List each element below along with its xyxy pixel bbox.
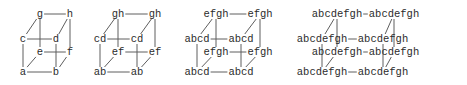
cube-edge bbox=[104, 19, 115, 34]
cube-edge bbox=[60, 57, 67, 67]
cube-edge bbox=[141, 19, 152, 34]
cube-edge bbox=[202, 57, 212, 67]
cube-edge bbox=[326, 57, 334, 67]
cube-edge bbox=[142, 57, 151, 67]
cube-edge bbox=[26, 19, 36, 34]
cube-edge bbox=[246, 57, 256, 67]
cube-edge bbox=[59, 19, 67, 34]
cube-edge bbox=[105, 57, 114, 67]
cube-edge bbox=[201, 19, 212, 34]
cube-edge bbox=[245, 19, 256, 34]
cube-edge bbox=[325, 19, 334, 34]
cube-edges bbox=[0, 0, 467, 85]
cube-edge bbox=[27, 57, 36, 67]
cube-edge bbox=[385, 19, 392, 34]
cube-edge bbox=[386, 57, 392, 67]
figure-canvas: g h c d e f a b gh gh cd cd ef ef ab ab … bbox=[0, 0, 467, 85]
